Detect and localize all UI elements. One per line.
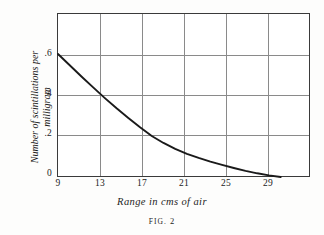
y-axis-title-line2: milligram bbox=[41, 32, 53, 182]
x-tick-label-17: 17 bbox=[137, 178, 147, 188]
y-axis-title: Number of scintillations per milligram bbox=[29, 32, 53, 182]
figure-caption-prefix: FIG. bbox=[149, 217, 167, 226]
x-tick-label-29: 29 bbox=[263, 178, 273, 188]
gridline-horizontal-06 bbox=[58, 55, 309, 56]
x-tick-label-9: 9 bbox=[56, 178, 61, 188]
figure-caption-number: 2 bbox=[170, 216, 175, 226]
plot-area bbox=[57, 13, 310, 177]
gridline-horizontal-04 bbox=[58, 95, 309, 96]
gridline-horizontal-02 bbox=[58, 135, 309, 136]
x-tick-label-25: 25 bbox=[221, 178, 231, 188]
y-axis-title-line1: Number of scintillations per bbox=[29, 32, 41, 182]
x-axis-title: Range in cms of air bbox=[0, 196, 324, 207]
figure-container: .6 .4 .2 0 9 13 17 21 25 29 Number of sc… bbox=[0, 0, 324, 235]
x-tick-label-13: 13 bbox=[95, 178, 105, 188]
x-tick-label-21: 21 bbox=[179, 178, 189, 188]
figure-caption: FIG. 2 bbox=[0, 216, 324, 226]
